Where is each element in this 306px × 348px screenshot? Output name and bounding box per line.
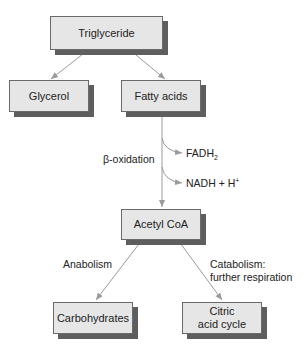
catabolism-label: Catabolism: further respiration: [210, 258, 292, 284]
node-acetyl-coa-label: Acetyl CoA: [134, 218, 188, 231]
node-carbohydrates: Carbohydrates: [53, 302, 133, 334]
anabolism-label: Anabolism: [63, 258, 112, 271]
node-citric-line1: Citric: [209, 305, 234, 318]
node-fatty-acids-label: Fatty acids: [134, 90, 187, 103]
connector-lines: [0, 0, 306, 348]
arrow-fadh2-branch: [162, 138, 182, 153]
nadh-text: NADH + H: [186, 177, 235, 189]
catabolism-line2: further respiration: [210, 271, 292, 284]
node-carbohydrates-label: Carbohydrates: [57, 312, 129, 325]
node-glycerol-label: Glycerol: [29, 90, 69, 103]
node-glycerol: Glycerol: [9, 80, 89, 112]
node-acetyl-coa: Acetyl CoA: [121, 209, 201, 240]
node-fatty-acids: Fatty acids: [121, 80, 201, 112]
fadh2-subscript: 2: [214, 154, 218, 161]
node-triglyceride-label: Triglyceride: [78, 27, 134, 40]
node-triglyceride: Triglyceride: [50, 16, 163, 50]
beta-oxidation-label: β-oxidation: [103, 153, 155, 166]
node-citric-line2: acid cycle: [198, 318, 246, 331]
fadh2-text: FADH: [186, 147, 214, 159]
catabolism-line1: Catabolism:: [210, 258, 292, 271]
nadh-superscript: +: [235, 177, 239, 184]
fadh2-label: FADH2: [186, 147, 218, 160]
nadh-label: NADH + H+: [186, 177, 239, 190]
arrow-triglyceride-fatty-acids: [130, 50, 165, 79]
node-citric-acid-cycle: Citric acid cycle: [182, 302, 262, 334]
arrow-triglyceride-glycerol: [51, 50, 88, 79]
arrow-nadh-branch: [162, 167, 182, 183]
